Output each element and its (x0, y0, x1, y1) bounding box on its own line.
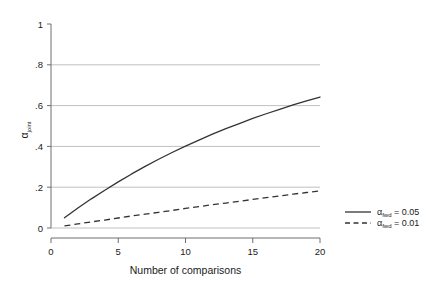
x-tick-label-5: 5 (116, 246, 121, 257)
y-tick-label-0.6: .6 (35, 100, 43, 111)
legend-1-rest: = 0.01 (392, 218, 420, 228)
y-tick-label-0.4: .4 (35, 141, 43, 152)
y-tick-label-1: 1 (38, 19, 43, 30)
legend-0-sub: fwd (382, 212, 391, 218)
chart-background (0, 0, 439, 281)
chart-figure: 1 .8 .6 .4 .2 0 0 5 10 15 20 Number of c… (0, 0, 439, 281)
chart-svg: 1 .8 .6 .4 .2 0 0 5 10 15 20 Number of c… (0, 0, 439, 281)
y-tick-label-0.2: .2 (35, 182, 43, 193)
x-tick-label-15: 15 (247, 246, 258, 257)
y-tick-label-0.8: .8 (35, 59, 43, 70)
x-tick-label-10: 10 (180, 246, 191, 257)
y-axis-title-sub: joint (26, 121, 32, 133)
x-tick-label-20: 20 (315, 246, 326, 257)
y-tick-label-0: 0 (38, 223, 43, 234)
legend-0-rest: = 0.05 (392, 207, 420, 217)
legend-1-sub: fwd (382, 223, 391, 229)
x-tick-label-0: 0 (48, 246, 53, 257)
x-axis-title: Number of comparisons (130, 264, 241, 276)
